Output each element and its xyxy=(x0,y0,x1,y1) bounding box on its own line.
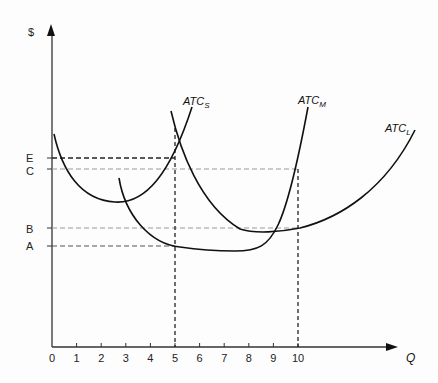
svg-text:1: 1 xyxy=(74,352,80,364)
y-axis-label: $ xyxy=(28,26,34,38)
atc-s-label: ATCS xyxy=(182,95,210,110)
svg-text:3: 3 xyxy=(123,352,129,364)
x-tick-labels: 0 1 2 3 4 5 6 7 8 9 10 xyxy=(49,352,304,364)
svg-text:0: 0 xyxy=(49,352,55,364)
svg-text:7: 7 xyxy=(221,352,227,364)
x-axis-label: Q xyxy=(406,351,415,365)
atc-m-label: ATCM xyxy=(297,94,326,109)
level-label-b: B xyxy=(26,223,33,235)
atc-l-label: ATCL xyxy=(384,122,411,137)
svg-text:10: 10 xyxy=(292,352,304,364)
svg-text:9: 9 xyxy=(270,352,276,364)
level-label-e: E xyxy=(26,152,33,164)
svg-text:2: 2 xyxy=(98,352,104,364)
y-level-ticks xyxy=(47,158,52,246)
level-label-a: A xyxy=(26,240,34,252)
level-label-c: C xyxy=(26,165,34,177)
svg-text:4: 4 xyxy=(147,352,153,364)
atc-m-curve xyxy=(119,107,308,251)
svg-text:6: 6 xyxy=(197,352,203,364)
cost-curves-diagram: $ Q 0 1 2 3 4 5 6 7 8 9 10 E C B A xyxy=(0,0,438,383)
y-axis-arrow-icon xyxy=(47,24,55,36)
x-axis-arrow-icon xyxy=(386,343,398,351)
svg-text:8: 8 xyxy=(246,352,252,364)
svg-text:5: 5 xyxy=(172,352,178,364)
atc-s-curve xyxy=(54,107,192,202)
atc-l-curve xyxy=(171,111,415,232)
